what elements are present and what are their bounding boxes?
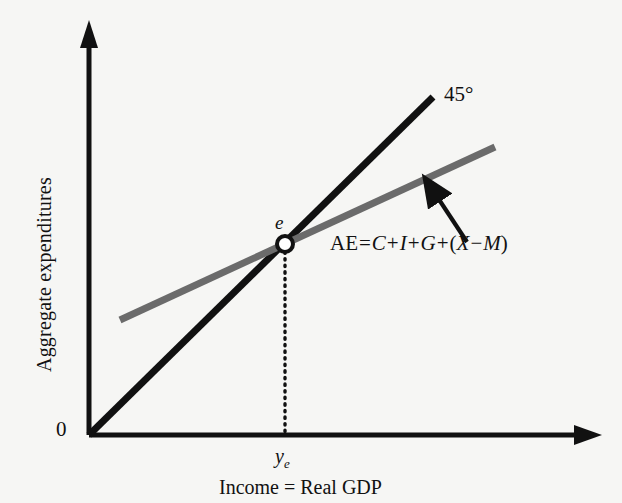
- ae-equation-term-x: X: [457, 231, 470, 255]
- ae-equation-lhs: AE: [330, 231, 358, 255]
- ae-equation-plus-1: +: [386, 231, 400, 255]
- ae-equation-open-paren: (: [450, 231, 457, 255]
- origin-label: 0: [56, 419, 67, 440]
- ae-equation-term-i: I: [400, 231, 407, 255]
- ae-equation-term-g: G: [421, 231, 436, 255]
- equilibrium-income-symbol: y: [275, 445, 284, 467]
- chart-canvas: [0, 0, 622, 503]
- x-axis: [89, 425, 602, 445]
- ae-equation-term-m: M: [483, 231, 501, 255]
- aggregate-expenditures-figure: Aggregate expenditures 0 45° e AE=C+I+G+…: [0, 0, 622, 503]
- y-axis: [80, 20, 98, 435]
- ae-equation: AE=C+I+G+(X−M): [330, 233, 508, 254]
- equilibrium-income-label: ye: [275, 446, 290, 470]
- ae-equation-close-paren: ): [501, 231, 508, 255]
- forty-five-degree-line: [89, 97, 433, 435]
- forty-five-degree-label: 45°: [444, 84, 473, 105]
- x-axis-arrowhead: [574, 425, 602, 445]
- ae-equation-plus-2: +: [407, 231, 421, 255]
- y-axis-title: Aggregate expenditures: [34, 177, 54, 372]
- ae-equation-minus: −: [469, 231, 483, 255]
- ae-equation-term-c: C: [372, 231, 386, 255]
- ae-equation-plus-3: +: [436, 231, 450, 255]
- equilibrium-point-marker: [277, 236, 293, 252]
- y-axis-arrowhead: [80, 20, 98, 48]
- x-axis-title: Income = Real GDP: [219, 477, 382, 497]
- ae-equation-equals: =: [358, 231, 372, 255]
- equilibrium-income-subscript: e: [284, 456, 290, 471]
- equilibrium-point-label: e: [275, 213, 283, 232]
